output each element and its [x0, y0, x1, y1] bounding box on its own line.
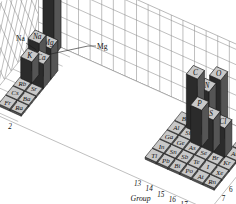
svg-text:Bi: Bi [174, 162, 180, 169]
svg-text:Ar: Ar [230, 150, 236, 157]
callout-mg: Mg [97, 42, 108, 51]
period-tick: 7 [222, 195, 226, 203]
svg-text:Ra: Ra [14, 104, 23, 111]
svg-text:As: As [188, 144, 196, 151]
svg-text:Sr: Sr [31, 85, 37, 92]
svg-text:P: P [196, 99, 202, 108]
svg-text:Rb: Rb [18, 80, 27, 87]
svg-text:Xe: Xe [215, 169, 223, 176]
svg-text:Kr: Kr [222, 159, 231, 166]
svg-text:O: O [216, 69, 222, 78]
svg-text:C: C [193, 68, 198, 77]
group-tick: 15 [157, 191, 165, 199]
svg-text:Br: Br [212, 154, 219, 161]
svg-text:Te: Te [193, 158, 199, 165]
svg-text:Ge: Ge [177, 139, 185, 146]
svg-text:Ga: Ga [165, 133, 174, 140]
svg-text:Rn: Rn [207, 178, 216, 185]
svg-text:At: At [197, 173, 205, 180]
group-tick: 17 [180, 201, 188, 204]
abundance-3d-bar-chart: HeNeBArSiAlKrBrSeAsGeGaXeITeSbSnInSrRbRn… [0, 0, 236, 204]
svg-text:In: In [158, 143, 165, 150]
svg-text:Pb: Pb [161, 157, 170, 164]
svg-text:Tl: Tl [151, 152, 157, 159]
group-tick: 13 [134, 180, 142, 188]
element-cell-K[interactable]: K [21, 48, 39, 83]
svg-text:Po: Po [184, 167, 193, 174]
svg-text:Ba: Ba [23, 95, 31, 102]
group-tick: 2 [8, 123, 12, 131]
svg-text:Sn: Sn [170, 148, 177, 155]
svg-text:Na: Na [32, 32, 42, 41]
group-tick: 14 [146, 185, 154, 193]
element-cell-P[interactable]: P [191, 97, 209, 147]
svg-text:Cs: Cs [11, 89, 19, 96]
svg-text:Fr: Fr [3, 99, 11, 106]
callout-na: Na [16, 34, 25, 43]
chart-figure: HeNeBArSiAlKrBrSeAsGeGaXeITeSbSnInSrRbRn… [0, 0, 236, 204]
svg-text:Si: Si [185, 129, 190, 136]
period-tick: 6 [229, 186, 233, 194]
svg-text:S: S [209, 109, 213, 118]
svg-text:Al: Al [172, 124, 179, 131]
svg-text:Se: Se [201, 149, 208, 156]
group-tick: 16 [169, 196, 177, 204]
group-axis-label: Group [131, 194, 151, 203]
svg-text:Sb: Sb [181, 153, 188, 160]
